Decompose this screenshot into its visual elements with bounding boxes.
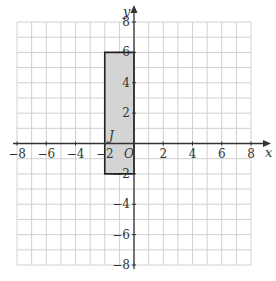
- x-tick-label: 2: [159, 147, 167, 161]
- x-tick-label: −2: [96, 147, 114, 161]
- x-tick-label: −6: [37, 147, 55, 161]
- x-axis-label: x: [265, 145, 273, 160]
- axes: [13, 5, 271, 269]
- x-tick-label: 4: [189, 147, 197, 161]
- x-tick-label: −8: [8, 147, 26, 161]
- y-axis-arrow-icon: [131, 5, 138, 13]
- y-tick-label: −2: [112, 167, 130, 181]
- origin-label: O: [124, 147, 134, 161]
- x-tick-label: −4: [67, 147, 85, 161]
- x-tick-label: 6: [218, 147, 226, 161]
- y-tick-label: −4: [112, 197, 130, 211]
- y-tick-label: 2: [122, 106, 130, 120]
- y-tick-label: 4: [122, 76, 130, 90]
- y-tick-label: −6: [112, 228, 130, 242]
- y-tick-label: −8: [112, 258, 130, 272]
- coordinate-grid: J −8−6−4−224688642−2−4−6−8Oxy: [0, 0, 276, 281]
- x-tick-label: 8: [247, 147, 255, 161]
- y-tick-label: 6: [122, 45, 130, 59]
- y-axis-label: y: [122, 4, 131, 19]
- tick-labels: −8−6−4−224688642−2−4−6−8Oxy: [8, 4, 273, 272]
